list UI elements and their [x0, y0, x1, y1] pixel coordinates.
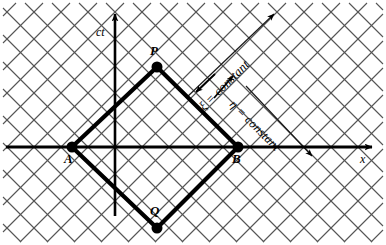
- point-label-B: B: [232, 152, 241, 165]
- grid-line-eta: [3, 8, 237, 242]
- grid-line-xi: [3, 3, 70, 70]
- axis-label-ct: ct: [96, 26, 105, 38]
- grid-line-xi: [3, 3, 232, 232]
- grid-line-eta: [3, 35, 210, 242]
- event-dot-P: [152, 62, 163, 73]
- coordinate-axes: [6, 14, 372, 216]
- event-dot-Q: [152, 223, 163, 234]
- grid-line-eta: [3, 197, 48, 242]
- figure-canvas: [0, 0, 386, 245]
- grid-line-xi: [236, 95, 383, 242]
- grid-line-eta: [106, 3, 345, 242]
- grid-line-xi: [317, 176, 383, 242]
- characteristic-grid: [3, 3, 383, 242]
- grid-line-eta: [322, 3, 383, 64]
- point-label-Q: Q: [150, 204, 159, 217]
- point-label-P: P: [150, 44, 158, 57]
- grid-line-xi: [3, 3, 43, 43]
- grid-line-eta: [376, 3, 383, 10]
- point-label-A: A: [64, 152, 73, 165]
- characteristic-direction-lines: [186, 14, 312, 156]
- grid-line-eta: [3, 170, 75, 242]
- grid-line-eta: [3, 143, 102, 242]
- grid-line-xi: [263, 122, 383, 242]
- grid-line-xi: [371, 230, 383, 242]
- grid-line-xi: [3, 3, 124, 124]
- grid-line-xi: [3, 3, 178, 178]
- grid-line-eta: [3, 224, 21, 242]
- spacetime-characteristic-figure: ct x P A B Q ξ = constant η = constant: [0, 0, 386, 245]
- grid-line-eta: [25, 3, 264, 242]
- grid-line-eta: [295, 3, 383, 91]
- axis-label-x: x: [360, 153, 365, 165]
- grid-line-eta: [349, 3, 383, 37]
- grid-line-xi: [155, 14, 383, 242]
- grid-line-xi: [3, 3, 97, 97]
